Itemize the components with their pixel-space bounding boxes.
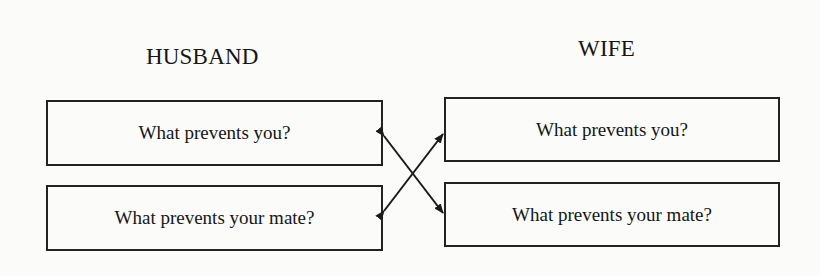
cross-arrows bbox=[0, 0, 820, 276]
arrow-husband-you-to-wife-mate bbox=[384, 136, 443, 213]
arrow-husband-mate-to-wife-you bbox=[384, 134, 443, 211]
